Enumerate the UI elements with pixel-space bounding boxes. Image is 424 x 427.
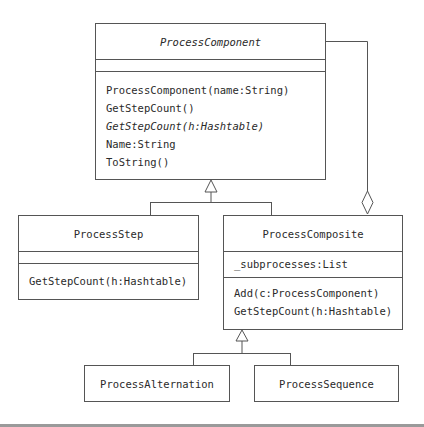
compartment-divider — [96, 59, 325, 60]
generalization-arrow-icon — [236, 330, 248, 341]
compartment-divider — [224, 251, 402, 252]
attribute: _subprocesses:List — [234, 258, 348, 270]
compartment-divider — [19, 263, 198, 264]
operation: ToString() — [106, 156, 169, 168]
compartment-divider — [19, 251, 198, 252]
class-process-composite: ProcessComposite _subprocesses:List Add(… — [223, 215, 403, 330]
operation: GetStepCount() — [106, 102, 195, 114]
class-name: ProcessSequence — [255, 378, 398, 390]
operation: ProcessComponent(name:String) — [106, 84, 289, 96]
class-process-step: ProcessStep GetStepCount(h:Hashtable) — [18, 215, 199, 300]
compartment-divider — [96, 71, 325, 72]
operation: Name:String — [106, 138, 176, 150]
operation: GetStepCount(h:Hashtable) — [29, 275, 187, 287]
operation: Add(c:ProcessComponent) — [234, 287, 379, 299]
class-name: ProcessComposite — [224, 228, 402, 240]
operation: GetStepCount(h:Hashtable) — [234, 305, 392, 317]
class-process-component: ProcessComponent ProcessComponent(name:S… — [95, 23, 326, 180]
class-process-sequence: ProcessSequence — [254, 365, 399, 402]
generalization-arrow-icon — [205, 180, 217, 192]
class-name: ProcessAlternation — [85, 378, 229, 390]
compartment-divider — [224, 277, 402, 278]
class-name: ProcessComponent — [96, 36, 325, 48]
class-name: ProcessStep — [19, 228, 198, 240]
operation-abstract: GetStepCount(h:Hashtable) — [106, 120, 264, 132]
class-process-alternation: ProcessAlternation — [84, 365, 230, 402]
aggregation-diamond-icon — [362, 191, 373, 214]
